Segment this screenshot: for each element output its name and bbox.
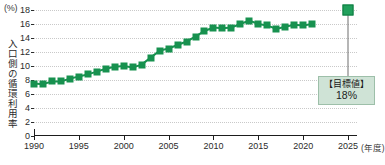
x-tick-mark	[79, 136, 80, 140]
y-axis-unit-label: (%)	[4, 3, 17, 13]
y-tick-label: 16	[20, 19, 30, 29]
data-point	[174, 42, 181, 49]
data-point	[300, 22, 307, 29]
data-point	[282, 23, 289, 30]
x-tick-label: 2000	[114, 141, 134, 151]
data-point	[120, 63, 127, 70]
data-point	[219, 25, 226, 32]
x-tick-mark	[348, 136, 349, 140]
y-tick-label: 2	[25, 117, 30, 127]
x-tick-label: 2015	[248, 141, 268, 151]
x-tick-label: 2010	[203, 141, 223, 151]
x-tick-mark	[124, 136, 125, 140]
data-point	[57, 78, 64, 85]
data-point	[273, 25, 280, 32]
series-connector-line	[34, 10, 357, 136]
x-tick-mark	[258, 136, 259, 140]
y-axis-line	[34, 129, 35, 136]
x-tick-label: 2020	[293, 141, 313, 151]
data-point	[228, 24, 235, 31]
x-axis-line	[34, 135, 357, 136]
data-point	[237, 21, 244, 28]
data-point	[264, 22, 271, 29]
x-tick-mark	[303, 136, 304, 140]
data-point	[129, 64, 136, 71]
data-point	[246, 17, 253, 24]
x-tick-mark	[213, 136, 214, 140]
y-tick-label: 8	[25, 75, 30, 85]
x-tick-label: 1990	[24, 141, 44, 151]
y-tick-label: 12	[20, 47, 30, 57]
y-tick-label: 10	[20, 61, 30, 71]
y-tick-label: 4	[25, 103, 30, 113]
y-tick-label: 0	[25, 131, 30, 141]
x-tick-mark	[169, 136, 170, 140]
data-point	[66, 75, 73, 82]
data-point	[138, 61, 145, 68]
x-tick-label: 2025	[338, 141, 358, 151]
data-point	[183, 38, 190, 45]
target-marker	[343, 5, 354, 16]
y-axis-title: 入口側の循環利用率	[4, 28, 17, 140]
data-point	[165, 45, 172, 52]
data-point	[111, 63, 118, 70]
data-point	[255, 21, 262, 28]
data-point	[48, 78, 55, 85]
data-point	[93, 68, 100, 75]
data-point	[210, 24, 217, 31]
target-callout: 【目標値】 18%	[318, 76, 375, 105]
data-point	[309, 21, 316, 28]
x-tick-label: 1995	[69, 141, 89, 151]
data-point	[156, 47, 163, 54]
data-point	[75, 73, 82, 80]
y-tick-label: 14	[20, 33, 30, 43]
x-tick-label: 2005	[159, 141, 179, 151]
data-point	[192, 33, 199, 40]
target-callout-value: 18%	[324, 90, 369, 101]
data-point	[31, 80, 38, 87]
x-axis-unit-label: (年度)	[361, 141, 385, 153]
x-tick-mark	[34, 136, 35, 140]
data-point	[147, 54, 154, 61]
data-point	[102, 65, 109, 72]
data-point	[291, 21, 298, 28]
data-point	[84, 71, 91, 78]
plot-area: 024681012141618 199019952000200520102015…	[34, 10, 357, 136]
data-point	[39, 81, 46, 88]
data-point	[201, 28, 208, 35]
y-tick-label: 6	[25, 89, 30, 99]
y-tick-label: 18	[20, 5, 30, 15]
